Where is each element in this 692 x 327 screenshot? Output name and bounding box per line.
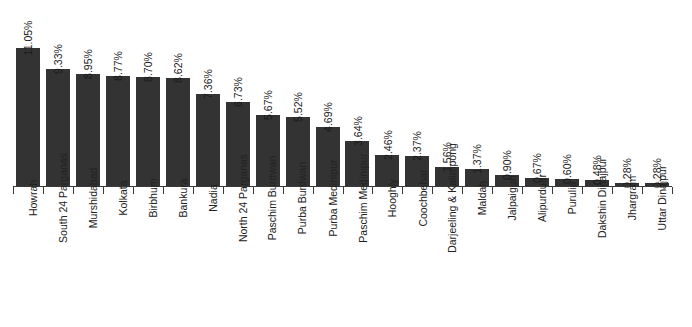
bar-value-label: 8.70% [142, 52, 154, 82]
bar[interactable] [196, 94, 220, 186]
axis-tick [13, 187, 14, 194]
category-label: Howrah [28, 180, 39, 216]
bar-value-label-wrap: 3.64% [350, 97, 364, 141]
bar-value-label: 1.37% [471, 144, 483, 174]
category-label-slot: Hooghly [372, 196, 402, 327]
axis-tick [522, 187, 523, 194]
bar-group[interactable]: 5.52% [283, 0, 313, 186]
bar-group[interactable]: 11.05% [13, 0, 43, 186]
category-label-slot: Purulia [552, 196, 582, 327]
category-label: South 24 Parganas [58, 153, 69, 243]
axis-tick [133, 187, 134, 194]
bar-value-label: 8.95% [82, 49, 94, 79]
bar-value-label: 8.62% [172, 53, 184, 83]
axis-tick [223, 187, 224, 194]
category-label-slot: Birbhum [133, 196, 163, 327]
category-label: Coochbehar [417, 169, 428, 226]
bar-value-label-wrap: 8.70% [141, 33, 155, 77]
axis-tick [163, 187, 164, 194]
bar-group[interactable]: 0.28% [642, 0, 672, 186]
category-label-slot: South 24 Parganas [43, 196, 73, 327]
category-label-slot: Howrah [13, 196, 43, 327]
category-label-slot: Jhargram [612, 196, 642, 327]
bar-group[interactable]: 0.90% [492, 0, 522, 186]
category-label: Purba Burdwan [298, 162, 309, 234]
bar-value-label-wrap: 0.67% [530, 134, 544, 178]
category-label: Purulia [567, 182, 578, 215]
bar[interactable] [16, 48, 40, 186]
bar-value-label: 5.52% [292, 92, 304, 122]
bar-value-label-wrap: 8.62% [171, 34, 185, 78]
bar-value-label: 0.60% [561, 154, 573, 184]
axis-tick [103, 187, 104, 194]
bar-value-label: 11.05% [22, 21, 34, 56]
bar-value-label: 2.37% [411, 132, 423, 162]
category-label: Purba Medinipur [328, 159, 339, 236]
bar-group[interactable]: 1.37% [462, 0, 492, 186]
category-label: Kolkata [118, 180, 129, 215]
bar-group[interactable]: 7.36% [193, 0, 223, 186]
bar-value-label-wrap: 7.36% [201, 50, 215, 94]
category-label: Maldah [477, 181, 488, 215]
bar-value-label-wrap: 8.95% [81, 30, 95, 74]
bar[interactable] [106, 76, 130, 186]
category-label: Hooghly [387, 179, 398, 218]
category-label: Nadia [208, 184, 219, 211]
axis-tick [193, 187, 194, 194]
category-label-slot: Darjeeling & Kalimpong [432, 196, 462, 327]
bar-group[interactable]: 4.69% [313, 0, 343, 186]
bar[interactable] [136, 77, 160, 186]
axis-tick [672, 187, 673, 194]
category-label-slot: Bankura [163, 196, 193, 327]
bar-value-label-wrap: 5.67% [261, 71, 275, 115]
category-label-slot: Paschim Medinipur [343, 196, 373, 327]
axis-tick [492, 187, 493, 194]
category-label: Dakshin Dinajpur [597, 158, 608, 238]
bar-chart: 11.05%9.33%8.95%8.77%8.70%8.62%7.36%6.73… [0, 0, 692, 327]
bar-value-label: 6.73% [232, 77, 244, 107]
category-label: Birbhum [148, 178, 159, 217]
category-axis-labels: HowrahSouth 24 ParganasMurshidabadKolkat… [13, 196, 672, 327]
axis-tick [283, 187, 284, 194]
axis-tick [642, 187, 643, 194]
bar-group[interactable]: 2.37% [402, 0, 432, 186]
plot-area: 11.05%9.33%8.95%8.77%8.70%8.62%7.36%6.73… [13, 0, 672, 186]
bar-value-label-wrap: 0.90% [500, 131, 514, 175]
bar-value-label-wrap: 4.69% [321, 83, 335, 127]
category-label: Paschim Burdwan [268, 156, 279, 241]
category-label-slot: Jalpaiguri [492, 196, 522, 327]
bar-group[interactable]: 0.60% [552, 0, 582, 186]
bar-value-label-wrap: 11.05% [21, 4, 35, 48]
bar-group[interactable]: 8.62% [163, 0, 193, 186]
axis-tick [73, 187, 74, 194]
category-label-slot: Kolkata [103, 196, 133, 327]
axis-tick [462, 187, 463, 194]
bar-value-label: 4.69% [322, 103, 334, 133]
axis-tick [43, 187, 44, 194]
bar-value-label: 3.64% [351, 116, 363, 146]
axis-tick [343, 187, 344, 194]
bar-group[interactable]: 8.70% [133, 0, 163, 186]
bar[interactable] [166, 78, 190, 186]
bar-group[interactable]: 0.67% [522, 0, 552, 186]
bar-group[interactable]: 0.28% [612, 0, 642, 186]
category-label-slot: Purba Burdwan [283, 196, 313, 327]
category-label-slot: Alipurduar [522, 196, 552, 327]
bar-group[interactable]: 8.95% [73, 0, 103, 186]
category-label-slot: Nadia [193, 196, 223, 327]
axis-tick [402, 187, 403, 194]
bar-group[interactable]: 2.46% [372, 0, 402, 186]
category-label: Alipurduar [537, 174, 548, 222]
category-label-slot: Coochbehar [402, 196, 432, 327]
axis-tick [313, 187, 314, 194]
axis-tick [432, 187, 433, 194]
bar-value-label-wrap: 6.73% [231, 58, 245, 102]
category-label: Murshidabad [88, 168, 99, 229]
bar-value-label: 2.46% [381, 130, 393, 160]
category-label: Bankura [178, 178, 189, 217]
category-label: Jhargram [627, 176, 638, 220]
axis-tick [372, 187, 373, 194]
bar-group[interactable]: 8.77% [103, 0, 133, 186]
bar-value-label-wrap: 0.60% [560, 135, 574, 179]
bar-value-label-wrap: 9.33% [51, 25, 65, 69]
